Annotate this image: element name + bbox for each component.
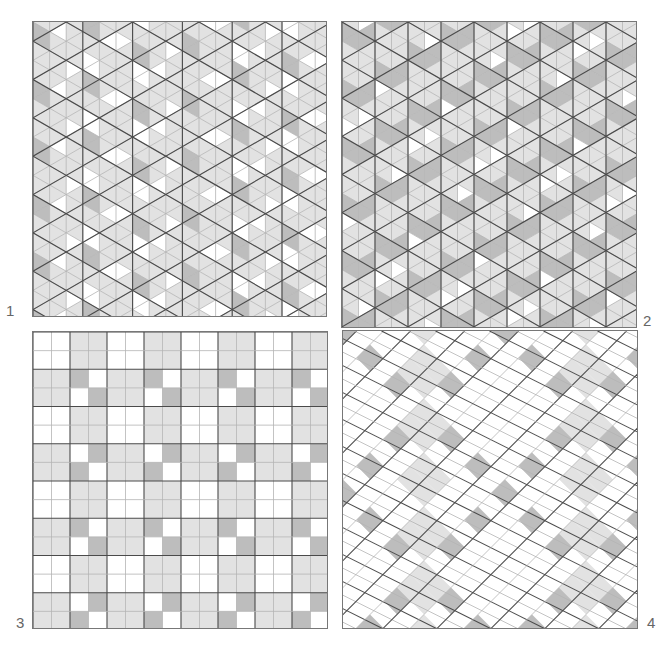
panel-1-triangular-pattern: [32, 21, 327, 317]
panel-label-3: 3: [16, 615, 24, 630]
panel-4-diagonal-pattern: [342, 330, 638, 629]
panel-2-triangular-pattern: [341, 21, 637, 328]
panel-label-2: 2: [643, 313, 651, 328]
panel-label-4: 4: [647, 615, 655, 630]
panel-3-square-pattern: [32, 331, 328, 629]
panel-label-1: 1: [6, 303, 14, 318]
